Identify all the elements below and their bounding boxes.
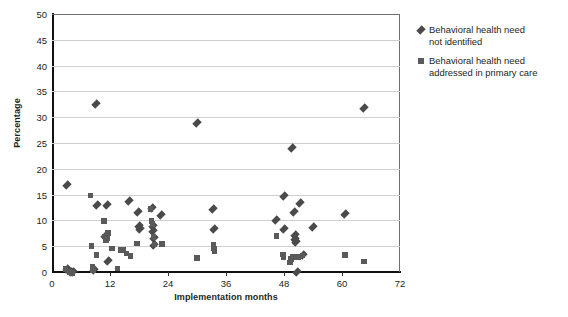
data-point — [109, 246, 115, 252]
data-point — [340, 209, 349, 218]
data-point — [342, 252, 348, 258]
legend-label-line1: Behavioral health need — [429, 55, 525, 66]
data-point — [125, 196, 134, 205]
y-tick-label-20: 20 — [36, 163, 47, 174]
data-point — [289, 207, 298, 216]
data-point — [279, 191, 288, 200]
square-marker-icon — [418, 58, 429, 64]
diamond-marker-icon — [418, 27, 429, 33]
x-tick-label-0: 0 — [49, 278, 54, 289]
x-tick-label-12: 12 — [105, 278, 116, 289]
x-tick-mark-60 — [342, 272, 343, 276]
data-point — [287, 143, 296, 152]
data-point — [192, 118, 201, 127]
gridline-y-15: 15 — [52, 195, 400, 196]
data-point — [360, 103, 369, 112]
gridline-y-50: 50 — [52, 14, 400, 15]
y-tick-label-0: 0 — [42, 267, 47, 278]
data-point — [209, 204, 218, 213]
x-tick-label-24: 24 — [163, 278, 174, 289]
data-point — [157, 210, 166, 219]
y-tick-label-30: 30 — [36, 112, 47, 123]
data-point — [148, 206, 154, 212]
data-point — [296, 199, 305, 208]
data-point — [152, 242, 158, 248]
y-tick-label-5: 5 — [42, 241, 47, 252]
x-tick-label-48: 48 — [279, 278, 290, 289]
gridline-y-45: 45 — [52, 40, 400, 41]
gridline-y-20: 20 — [52, 169, 400, 170]
chart-legend: Behavioral health need not identified Be… — [418, 24, 568, 86]
y-tick-label-40: 40 — [36, 60, 47, 71]
x-axis-title: Implementation months — [52, 292, 400, 302]
y-axis-title: Percentage — [12, 73, 22, 173]
legend-item-not-identified: Behavioral health need not identified — [418, 24, 568, 48]
x-tick-label-36: 36 — [221, 278, 232, 289]
legend-item-addressed-primary-care: Behavioral health need addressed in prim… — [418, 55, 568, 79]
gridline-y-5: 5 — [52, 246, 400, 247]
data-point — [101, 218, 107, 224]
data-point — [103, 256, 112, 265]
data-point — [105, 230, 111, 236]
data-point — [274, 233, 280, 239]
x-tick-label-72: 72 — [395, 278, 406, 289]
data-point — [159, 241, 165, 247]
data-point — [151, 234, 157, 240]
data-point — [133, 207, 142, 216]
data-point — [308, 222, 317, 231]
data-point — [134, 241, 140, 247]
data-point — [63, 180, 72, 189]
gridline-y-30: 30 — [52, 117, 400, 118]
data-point — [300, 253, 306, 259]
data-point — [272, 215, 281, 224]
data-point — [115, 266, 121, 272]
plot-area: 05101520253035404550 0122436486072 — [52, 14, 400, 272]
scatter-chart-figure: Percentage 05101520253035404550 01224364… — [0, 0, 568, 317]
y-tick-label-35: 35 — [36, 86, 47, 97]
data-point — [280, 224, 289, 233]
data-point — [102, 200, 111, 209]
y-tick-label-45: 45 — [36, 34, 47, 45]
data-point — [89, 243, 95, 249]
data-point — [210, 225, 219, 234]
data-point — [361, 259, 367, 265]
y-tick-label-50: 50 — [36, 9, 47, 20]
data-point — [91, 99, 100, 108]
data-point — [104, 235, 110, 241]
data-point — [281, 254, 287, 260]
data-point — [150, 221, 156, 227]
y-tick-label-10: 10 — [36, 215, 47, 226]
y-tick-label-15: 15 — [36, 189, 47, 200]
x-tick-mark-12 — [110, 272, 111, 276]
legend-label-addressed-primary-care: Behavioral health need addressed in prim… — [429, 55, 568, 79]
gridline-y-35: 35 — [52, 91, 400, 92]
data-point — [88, 193, 94, 199]
legend-label-line2: addressed in primary care — [429, 67, 568, 79]
data-point — [212, 249, 218, 255]
gridline-y-25: 25 — [52, 143, 400, 144]
x-tick-mark-24 — [168, 272, 169, 276]
gridline-y-40: 40 — [52, 66, 400, 67]
data-point — [194, 255, 200, 261]
data-point — [93, 200, 102, 209]
x-tick-label-60: 60 — [337, 278, 348, 289]
data-point — [70, 270, 76, 276]
legend-label-line2: not identified — [429, 36, 568, 48]
data-point — [292, 267, 301, 276]
data-point — [90, 267, 96, 273]
data-point — [128, 253, 134, 259]
legend-label-not-identified: Behavioral health need not identified — [429, 24, 568, 48]
data-point — [94, 252, 100, 258]
y-tick-label-25: 25 — [36, 138, 47, 149]
x-tick-mark-48 — [284, 272, 285, 276]
x-tick-mark-36 — [226, 272, 227, 276]
legend-label-line1: Behavioral health need — [429, 24, 525, 35]
